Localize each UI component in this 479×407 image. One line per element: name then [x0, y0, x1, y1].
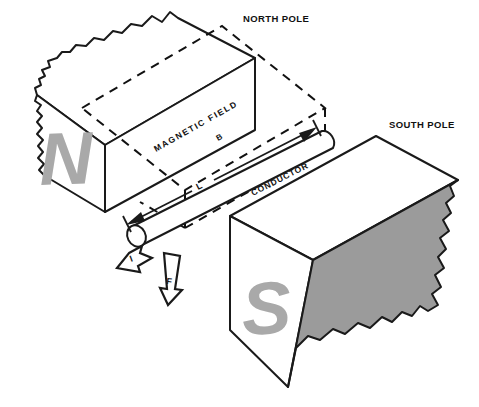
south-pole-label: SOUTH POLE: [389, 119, 455, 130]
magnetic-field-diagram: N MAGNETIC FIELD B S: [0, 0, 479, 407]
north-pole-label: NORTH POLE: [243, 13, 309, 24]
current-arrow-shape: [117, 246, 152, 272]
current-direction-arrow: I: [117, 246, 152, 272]
diagram-canvas: N MAGNETIC FIELD B S: [0, 0, 479, 407]
south-pole-letter: S: [239, 266, 293, 351]
force-direction-arrow: F: [160, 253, 182, 305]
north-pole-letter: N: [38, 116, 96, 201]
